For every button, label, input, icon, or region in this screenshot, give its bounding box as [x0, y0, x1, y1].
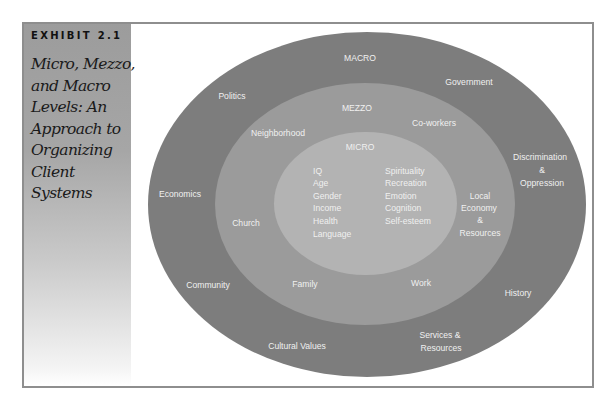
- micro-heading: MICRO: [346, 142, 375, 152]
- micro-item-language: Language: [313, 229, 351, 239]
- macro-item-government: Government: [445, 77, 493, 87]
- macro-item-ampersand: &: [539, 165, 545, 175]
- micro-item-spirituality: Spirituality: [385, 166, 425, 176]
- macro-item-discrimination: Discrimination: [513, 152, 567, 162]
- macro-item-resources: Resources: [420, 343, 461, 353]
- mezzo-item-economy: Economy: [461, 203, 498, 213]
- mezzo-item-work: Work: [411, 278, 432, 288]
- levels-diagram: MACRO Politics Government Discrimination…: [0, 0, 611, 414]
- micro-ring: [274, 132, 457, 275]
- macro-item-economics: Economics: [159, 189, 201, 199]
- mezzo-item-ampersand: &: [477, 215, 483, 225]
- macro-item-oppression: Oppression: [520, 178, 564, 188]
- mezzo-item-family: Family: [292, 279, 318, 289]
- macro-item-history: History: [505, 288, 532, 298]
- micro-item-emotion: Emotion: [385, 191, 417, 201]
- mezzo-item-co-workers: Co-workers: [412, 118, 456, 128]
- macro-item-cultural-values: Cultural Values: [268, 341, 326, 351]
- mezzo-item-resources: Resources: [459, 228, 500, 238]
- micro-item-age: Age: [313, 178, 329, 188]
- macro-item-politics: Politics: [218, 91, 245, 101]
- micro-item-recreation: Recreation: [385, 178, 427, 188]
- mezzo-heading: MEZZO: [342, 103, 372, 113]
- micro-item-health: Health: [313, 216, 338, 226]
- mezzo-item-neighborhood: Neighborhood: [251, 128, 305, 138]
- micro-item-self-esteem: Self-esteem: [385, 216, 431, 226]
- micro-item-gender: Gender: [313, 191, 342, 201]
- micro-item-iq: IQ: [313, 166, 322, 176]
- mezzo-item-church: Church: [232, 218, 260, 228]
- macro-heading: MACRO: [344, 53, 376, 63]
- macro-item-community: Community: [186, 280, 230, 290]
- mezzo-item-local: Local: [470, 191, 491, 201]
- micro-item-income: Income: [313, 203, 341, 213]
- micro-item-cognition: Cognition: [385, 203, 422, 213]
- macro-item-services: Services &: [419, 330, 460, 340]
